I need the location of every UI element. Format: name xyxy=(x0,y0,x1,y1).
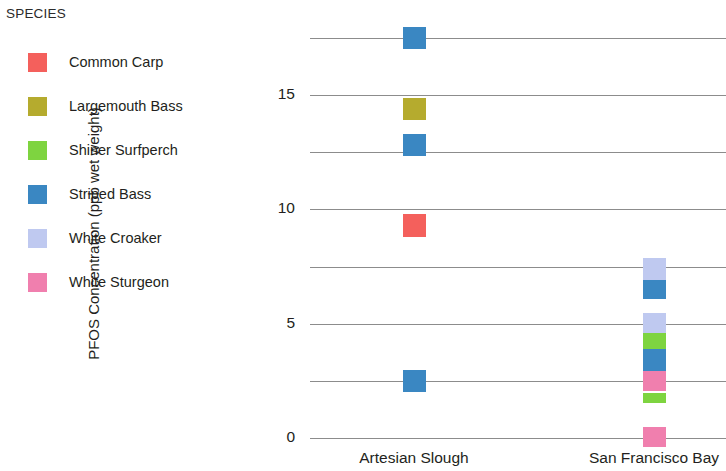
data-marker xyxy=(403,134,426,156)
x-axis-tick-label: San Francisco Bay xyxy=(564,449,726,467)
data-marker xyxy=(643,280,666,299)
x-axis-tick-label: Artesian Slough xyxy=(324,449,504,467)
gridline xyxy=(310,209,726,210)
data-marker xyxy=(643,258,666,280)
data-marker xyxy=(643,313,666,335)
y-axis-title: PFOS Concentration (ppb wet weight) xyxy=(85,69,102,399)
gridline xyxy=(310,152,726,153)
y-axis-tick-label: 5 xyxy=(255,314,295,332)
data-marker xyxy=(643,349,666,371)
gridline xyxy=(310,95,726,96)
data-marker xyxy=(643,427,666,447)
chart-plot-area: PFOS Concentration (ppb wet weight) 0510… xyxy=(0,0,726,471)
y-axis-tick-label: 0 xyxy=(255,428,295,446)
data-marker xyxy=(643,393,666,403)
data-marker xyxy=(403,98,426,120)
data-marker xyxy=(643,371,666,391)
gridline xyxy=(310,38,726,39)
data-marker xyxy=(403,370,426,392)
y-axis-tick-label: 15 xyxy=(255,85,295,103)
data-marker xyxy=(403,214,426,237)
y-axis-tick-label: 10 xyxy=(255,199,295,217)
data-marker xyxy=(403,27,426,49)
